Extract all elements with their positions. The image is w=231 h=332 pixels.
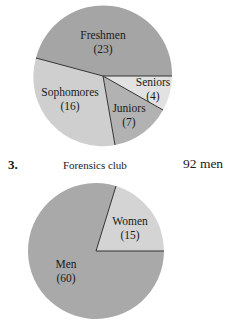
forensics-pie-chart: Women (15) Men (60) <box>28 183 164 319</box>
label-juniors: Juniors <box>112 102 146 114</box>
value-juniors: (7) <box>122 116 136 129</box>
label-seniors: Seniors <box>136 76 171 88</box>
chart-title: Forensics club <box>63 159 127 171</box>
value-freshmen: (23) <box>93 43 112 56</box>
class-pie-chart: Freshmen (23) Seniors (4) Juniors (7) So… <box>33 5 172 146</box>
label-women: Women <box>112 215 148 227</box>
value-women: (15) <box>120 229 139 242</box>
label-sophomores: Sophomores <box>41 86 99 99</box>
value-men: (60) <box>56 272 75 285</box>
problem-note: 92 men <box>183 156 223 172</box>
label-freshmen: Freshmen <box>80 29 126 41</box>
value-sophomores: (16) <box>60 100 79 113</box>
label-men: Men <box>55 258 76 270</box>
value-seniors: (4) <box>146 90 160 103</box>
problem-number: 3. <box>8 157 18 173</box>
